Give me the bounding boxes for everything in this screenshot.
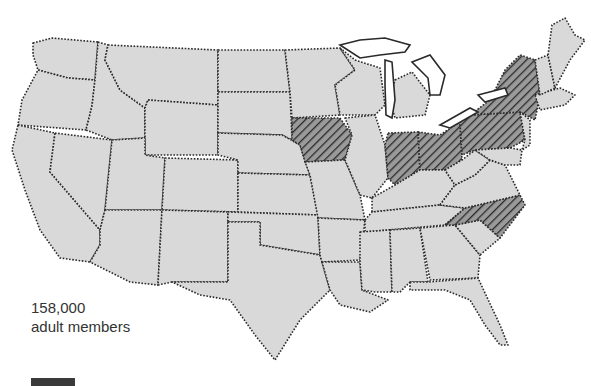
state-north-dakota	[218, 50, 290, 92]
state-new-mexico	[158, 210, 228, 285]
legend-swatch	[31, 378, 75, 386]
state-ohio	[418, 122, 462, 170]
state-michigan	[390, 72, 430, 118]
lake-superior	[340, 38, 410, 58]
state-florida	[410, 278, 508, 345]
state-wyoming	[145, 100, 218, 155]
state-kansas	[238, 173, 318, 215]
lake-michigan	[385, 60, 395, 118]
state-maine	[548, 18, 585, 88]
state-arkansas	[318, 218, 365, 262]
state-colorado	[162, 158, 238, 212]
member-count: 158,000	[31, 298, 85, 317]
member-description: adult members	[31, 317, 130, 336]
state-mississippi	[360, 230, 392, 292]
